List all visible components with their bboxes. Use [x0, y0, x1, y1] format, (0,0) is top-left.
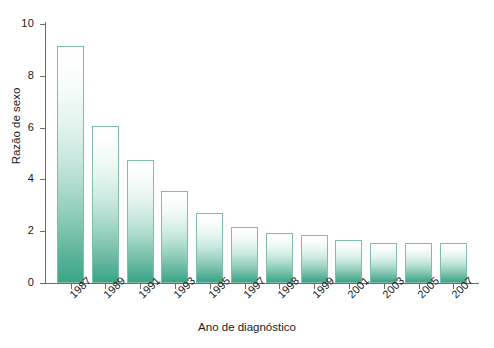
plot-area — [45, 24, 478, 283]
bar-rect — [92, 126, 119, 283]
bar-rect — [335, 240, 362, 283]
bar-chart-figure: 0246810 Razão de sexo 198719891991199319… — [0, 0, 494, 348]
y-tick-label: 2 — [0, 224, 34, 236]
y-tick-label: 0 — [0, 276, 34, 288]
bar-rect — [57, 46, 84, 283]
x-axis-title: Ano de diagnóstico — [0, 321, 494, 333]
bar-rect — [405, 243, 432, 283]
bar-rect — [231, 227, 258, 283]
bar-rect — [301, 235, 328, 283]
y-axis-title: Razão de sexo — [10, 66, 22, 186]
y-tick-mark — [40, 283, 45, 284]
bar-rect — [266, 233, 293, 284]
y-tick-label: 10 — [0, 17, 34, 29]
bar-rect — [196, 213, 223, 283]
bar-rect — [127, 160, 154, 283]
bar-rect — [161, 191, 188, 283]
